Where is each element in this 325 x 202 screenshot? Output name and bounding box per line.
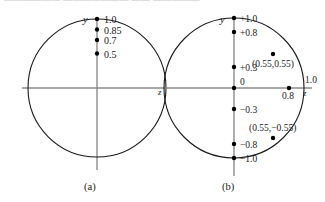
panel-b-point-y-minus-0-8	[232, 142, 236, 146]
panel-a-point-3	[95, 38, 99, 42]
panel-b-y-axis-label: y	[219, 14, 225, 25]
panel-b-label-y-plus-0-8: +0.8	[240, 28, 257, 38]
figure-two-panel-unit-circles: y z 1.0 0.85 0.7 0.5 y z	[0, 0, 325, 202]
panel-a-z-axis-label: z	[157, 87, 162, 97]
panel-a: y z 1.0 0.85 0.7 0.5	[22, 14, 166, 170]
panel-b-label-y-minus-0-8: −0.8	[240, 140, 257, 150]
panel-b-point-y-minus-1	[232, 156, 236, 160]
panel-b-label-y-minus-1: −1.0	[240, 154, 257, 164]
figure-canvas: y z 1.0 0.85 0.7 0.5 y z	[0, 0, 325, 202]
panel-b-label-0-55-minus-0-55: (0.55,−0.55)	[249, 123, 296, 134]
panel-b-point-origin	[232, 86, 236, 90]
panel-b-point-0-55-minus-0-55	[271, 136, 275, 140]
panel-a-point-label-1: 1.0	[104, 14, 117, 25]
panel-b-label-0-55-0-55: (0.55,0.55)	[252, 59, 294, 70]
panel-a-point-4	[95, 51, 99, 55]
panel-b: y z +1.0 +0.8 +0.3 0 −0.3 −0.8 −1.0 0.8 …	[164, 14, 317, 176]
panel-b-point-y-minus-0-3	[232, 107, 236, 111]
panel-a-point-label-3: 0.7	[104, 35, 117, 46]
panel-b-label-y-plus-1: +1.0	[240, 14, 257, 24]
panel-a-point-1	[95, 17, 99, 21]
panel-b-label-x-1-0: 1.0	[305, 75, 317, 85]
panel-b-point-0-55-0-55	[271, 52, 275, 56]
panel-b-point-y-plus-0-8	[232, 30, 236, 34]
panel-a-caption: (a)	[84, 181, 96, 193]
panel-a-point-label-4: 0.5	[104, 49, 117, 60]
panel-a-point-2	[95, 27, 99, 31]
panel-b-label-origin: 0	[240, 77, 245, 87]
panel-b-caption: (b)	[222, 181, 234, 193]
panel-a-y-axis-label: y	[82, 14, 88, 25]
panel-b-label-y-minus-0-3: −0.3	[240, 105, 257, 115]
panel-a-point-label-2: 0.85	[104, 25, 122, 36]
panel-b-point-y-plus-1	[232, 16, 236, 20]
panel-b-point-y-plus-0-3	[232, 65, 236, 69]
panel-b-point-x-0-8	[287, 86, 291, 90]
panel-b-z-axis-label: z	[302, 88, 307, 98]
panel-b-label-x-0-8: 0.8	[282, 91, 294, 101]
